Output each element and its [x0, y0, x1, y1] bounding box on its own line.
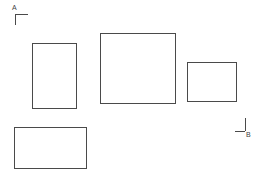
- marker-b-vertical-tick: [245, 118, 246, 131]
- drawing-canvas: A B: [0, 0, 268, 177]
- marker-b-horizontal-tick: [235, 131, 245, 132]
- section-marker-b-label: B: [246, 131, 251, 138]
- rectangle-small-right[interactable]: [187, 62, 237, 102]
- rectangle-wide-bottom-left[interactable]: [14, 127, 87, 169]
- marker-a-horizontal-tick: [15, 14, 28, 15]
- section-marker-a-label: A: [12, 4, 17, 11]
- rectangle-large-center[interactable]: [100, 33, 176, 104]
- marker-a-vertical-tick: [15, 14, 16, 25]
- rectangle-tall-left[interactable]: [32, 43, 77, 109]
